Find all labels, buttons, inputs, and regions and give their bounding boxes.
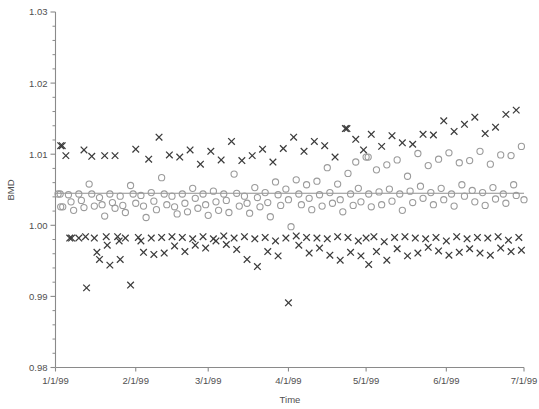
data-point-circle (283, 186, 289, 192)
data-point-cross (176, 154, 183, 161)
data-point-circle (448, 191, 454, 197)
data-point-cross (443, 238, 450, 245)
data-point-circle (428, 189, 434, 195)
data-point-circle (102, 213, 108, 219)
data-point-cross (373, 248, 380, 255)
data-point-cross (422, 236, 429, 243)
data-point-circle (394, 157, 400, 163)
data-point-circle (508, 153, 514, 159)
data-point-circle (127, 182, 133, 188)
data-point-cross (435, 248, 442, 255)
data-point-cross (283, 235, 290, 242)
data-point-circle (190, 185, 196, 191)
data-point-circle (205, 212, 211, 218)
data-point-cross (262, 234, 269, 241)
data-point-circle (376, 189, 382, 195)
data-point-cross (259, 146, 266, 153)
data-point-cross (83, 285, 90, 292)
data-point-circle (293, 177, 299, 183)
data-point-circle (236, 203, 242, 209)
data-point-circle (490, 185, 496, 191)
data-point-cross (461, 121, 468, 128)
data-point-cross (127, 282, 134, 289)
data-point-circle (347, 191, 353, 197)
data-point-circle (184, 209, 190, 215)
data-point-circle (247, 210, 253, 216)
data-point-cross (138, 238, 145, 245)
data-point-circle (435, 156, 441, 162)
data-point-cross (391, 234, 398, 241)
data-point-cross (306, 250, 313, 257)
data-point-cross (264, 248, 271, 255)
data-point-circle (174, 211, 180, 217)
data-point-circle (314, 178, 320, 184)
data-point-circle (254, 194, 260, 200)
data-point-circle (179, 191, 185, 197)
data-point-cross (368, 131, 375, 138)
data-point-circle (472, 199, 478, 205)
data-point-circle (161, 191, 167, 197)
data-point-cross (440, 117, 447, 124)
data-point-cross (324, 236, 331, 243)
data-point-cross (231, 235, 238, 242)
data-point-cross (505, 237, 512, 244)
data-point-circle (117, 193, 123, 199)
data-point-cross (345, 234, 352, 241)
data-point-circle (91, 203, 97, 209)
data-point-cross (474, 234, 481, 241)
data-point-circle (324, 165, 330, 171)
data-point-cross (218, 157, 225, 164)
data-point-cross (301, 148, 308, 155)
data-point-circle (267, 214, 273, 220)
data-point-cross (179, 234, 186, 241)
data-point-cross (352, 136, 359, 143)
data-point-circle (345, 170, 351, 176)
data-point-cross (497, 245, 504, 252)
data-point-circle (389, 198, 395, 204)
data-point-circle (231, 171, 237, 177)
data-point-circle (498, 152, 504, 158)
data-point-circle (143, 214, 149, 220)
data-point-circle (96, 194, 102, 200)
data-point-cross (290, 134, 297, 141)
data-point-cross (233, 246, 240, 253)
data-point-cross (453, 233, 460, 240)
data-point-cross (197, 161, 204, 168)
data-point-cross (158, 234, 165, 241)
data-point-circle (482, 202, 488, 208)
data-point-cross (151, 251, 158, 258)
data-point-circle (257, 204, 263, 210)
data-point-circle (410, 199, 416, 205)
data-point-cross (327, 252, 334, 259)
data-point-cross (140, 249, 147, 256)
data-point-cross (166, 152, 173, 159)
data-point-cross (415, 250, 422, 257)
data-point-circle (327, 189, 333, 195)
data-point-circle (265, 199, 271, 205)
y-major-ticks (51, 12, 56, 368)
data-point-cross (311, 138, 318, 145)
x-tick-label: 7/1/99 (511, 375, 537, 386)
data-point-circle (99, 202, 105, 208)
data-point-cross (477, 250, 484, 257)
data-point-cross (103, 233, 110, 240)
data-point-cross (384, 257, 391, 264)
circle-series-points (55, 143, 527, 230)
data-point-circle (441, 197, 447, 203)
data-point-cross (332, 154, 339, 161)
data-point-circle (316, 192, 322, 198)
data-point-cross (412, 235, 419, 242)
data-point-cross (148, 235, 155, 242)
data-point-cross (495, 233, 502, 240)
data-point-circle (226, 209, 232, 215)
data-point-circle (107, 191, 113, 197)
data-point-cross (446, 252, 453, 259)
data-point-circle (386, 186, 392, 192)
data-point-circle (335, 181, 341, 187)
data-point-circle (438, 185, 444, 191)
x-tick-label: 1/1/99 (42, 375, 68, 386)
data-point-circle (288, 224, 294, 230)
data-point-circle (425, 162, 431, 168)
y-tick-label: 1.00 (29, 220, 48, 231)
data-point-circle (71, 207, 77, 213)
